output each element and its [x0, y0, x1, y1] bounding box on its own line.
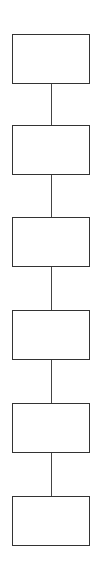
connector-line-5-6	[51, 453, 52, 496]
diagram-node-1	[12, 34, 90, 84]
connector-line-1-2	[51, 84, 52, 125]
diagram-node-4	[12, 310, 90, 360]
diagram-node-5	[12, 403, 90, 453]
connector-line-4-5	[51, 360, 52, 403]
diagram-node-6	[12, 496, 90, 546]
connector-line-3-4	[51, 267, 52, 310]
connector-line-2-3	[51, 175, 52, 217]
diagram-node-2	[12, 125, 90, 175]
diagram-node-3	[12, 217, 90, 267]
